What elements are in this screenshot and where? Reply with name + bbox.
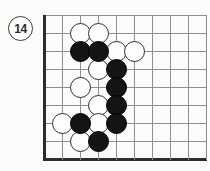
black-stone[interactable]	[70, 113, 91, 134]
grid-line-vertical	[134, 15, 135, 160]
white-stone[interactable]	[124, 41, 145, 62]
grid-line-horizontal	[43, 141, 207, 142]
black-stone[interactable]	[106, 113, 127, 134]
grid-line-horizontal	[43, 33, 207, 34]
grid-line-horizontal	[43, 15, 207, 16]
white-stone[interactable]	[70, 77, 91, 98]
board-edge-left	[43, 15, 46, 160]
go-diagram-root: 14	[0, 0, 210, 171]
grid-line-vertical	[206, 15, 207, 160]
board-edge-bottom	[43, 158, 207, 161]
grid-line-vertical	[188, 15, 189, 160]
grid-line-vertical	[170, 15, 171, 160]
move-number-badge: 14	[8, 16, 33, 41]
grid-line-vertical	[152, 15, 153, 160]
grid-line-vertical	[62, 15, 63, 160]
move-number-label: 14	[14, 23, 27, 35]
black-stone[interactable]	[88, 41, 109, 62]
black-stone[interactable]	[88, 131, 109, 152]
